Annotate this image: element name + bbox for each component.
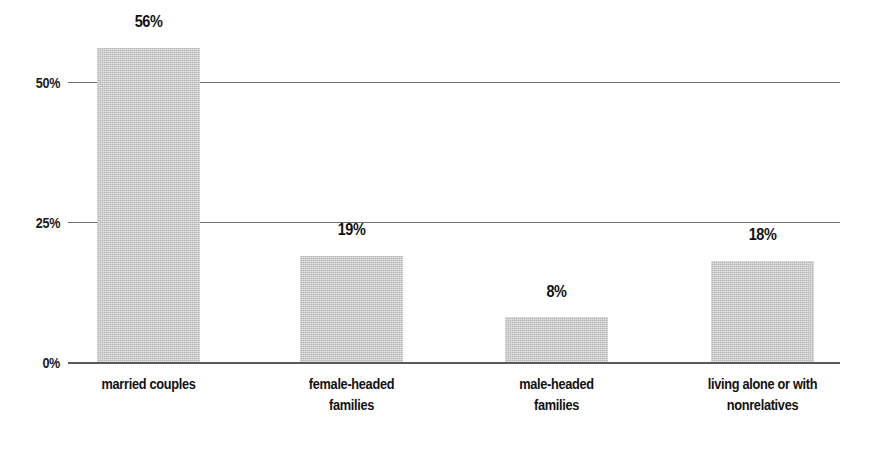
x-axis-label-line: families (267, 395, 435, 416)
bar-value-label-living-alone-or-nonrelatives: 18% (719, 225, 807, 245)
bar-value-label-married-couples: 56% (105, 12, 193, 32)
x-axis-label-female-headed-families: female-headed families (267, 374, 435, 416)
x-axis-label-line: male-headed (472, 374, 640, 395)
bar-female-headed-families (300, 256, 403, 362)
x-axis-label-line: nonrelatives (678, 395, 846, 416)
x-axis-label-married-couples: married couples (64, 374, 232, 395)
bar-male-headed-families (505, 317, 608, 362)
bar-married-couples (97, 48, 200, 362)
bar-living-alone-or-nonrelatives (711, 261, 814, 362)
x-axis-label-line: married couples (64, 374, 232, 395)
y-tick-label-25: 25% (10, 214, 60, 231)
x-axis-label-line: families (472, 395, 640, 416)
x-axis-label-male-headed-families: male-headed families (472, 374, 640, 416)
x-axis-label-line: living alone or with (678, 374, 846, 395)
axis-baseline-0 (68, 362, 840, 364)
x-axis-label-line: female-headed (267, 374, 435, 395)
bar-value-label-male-headed-families: 8% (513, 282, 601, 302)
y-tick-label-50: 50% (10, 74, 60, 91)
x-axis-label-living-alone-or-nonrelatives: living alone or with nonrelatives (678, 374, 846, 416)
bar-chart: 50% 25% 0% 56% 19% 8% 18% married couple… (0, 0, 883, 452)
bar-value-label-female-headed-families: 19% (308, 220, 396, 240)
y-tick-label-0: 0% (10, 354, 60, 371)
plot-area: 50% 25% 0% 56% 19% 8% 18% married couple… (0, 0, 883, 452)
